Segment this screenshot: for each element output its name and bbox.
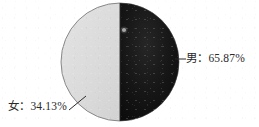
pie-label-female: 女：34.13% <box>8 101 67 113</box>
pie-slice-male <box>120 3 179 121</box>
scan-speck-halo <box>121 27 128 34</box>
pie-chart-figure: 男：65.87% 女：34.13% <box>0 0 259 127</box>
pie-label-male: 男：65.87% <box>186 53 245 65</box>
pie-slice-female <box>61 3 120 121</box>
